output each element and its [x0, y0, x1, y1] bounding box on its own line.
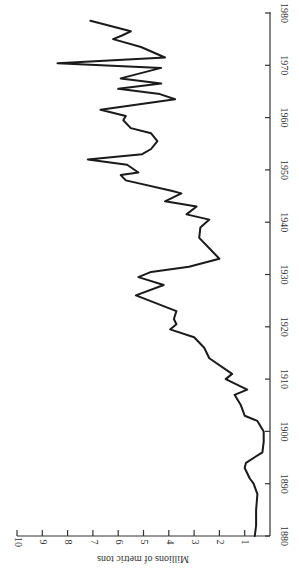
value-tick-label: 3: [190, 540, 201, 545]
year-tick-label: 1960: [279, 108, 290, 128]
value-tick-label: 5: [139, 540, 150, 545]
year-tick-label: 1890: [279, 474, 290, 494]
year-tick-label: 1900: [279, 421, 290, 441]
year-tick-label: 1950: [279, 160, 290, 180]
value-axis-ticks: 12345678910: [13, 530, 252, 547]
value-tick-label: 10: [13, 537, 24, 547]
value-tick-label: 4: [165, 540, 176, 545]
value-tick-label: 8: [63, 540, 74, 545]
value-axis-title: Millions of metric tons: [97, 554, 189, 565]
year-tick-label: 1930: [279, 265, 290, 285]
year-tick-label: 1920: [279, 317, 290, 337]
year-tick-label: 1880: [279, 526, 290, 546]
value-tick-label: 1: [240, 540, 251, 545]
value-tick-label: 9: [38, 540, 49, 545]
value-tick-label: 6: [114, 540, 125, 545]
year-tick-label: 1910: [279, 369, 290, 389]
value-tick-label: 7: [89, 540, 100, 545]
line-chart: 1880189019001910192019301940195019601970…: [0, 0, 299, 585]
series-line: [58, 21, 264, 536]
year-tick-label: 1970: [279, 55, 290, 75]
year-tick-label: 1940: [279, 212, 290, 232]
year-axis-ticks: 1880189019001910192019301940195019601970…: [265, 3, 290, 546]
value-tick-label: 2: [215, 540, 226, 545]
year-tick-label: 1980: [279, 3, 290, 23]
